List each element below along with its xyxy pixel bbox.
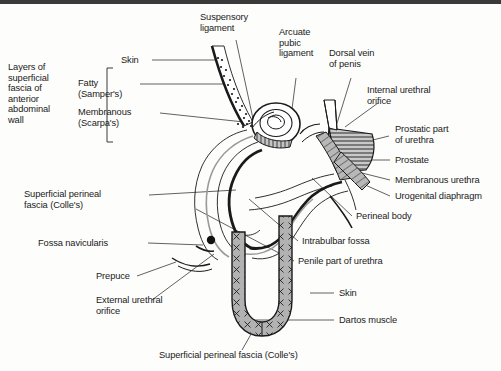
pubic-symphysis [252,103,300,148]
label-skin-top: Skin [121,55,139,66]
label-perineal-body: Perineal body [356,211,412,222]
label-layers-group: Layers of superficial fascia of anterior… [8,62,50,126]
label-membranous-urethra: Membranous urethra [395,175,480,186]
anatomical-figure: Layers of superficial fascia of anterior… [0,0,501,371]
label-superficial-perineal-fascia-left: Superficial perineal fascia (Colle's) [24,189,148,210]
label-arcuate-pubic-ligament: Arcuate pubic ligament [279,27,313,59]
label-skin-right: Skin [339,288,357,299]
label-prepuce: Prepuce [96,271,130,282]
abdominal-wall [212,46,253,128]
label-penile-part: Penile part of urethra [298,256,383,267]
label-fossa-navicularis: Fossa navicularis [38,238,108,249]
urethra-and-penis [172,130,348,271]
label-prostate: Prostate [395,155,429,166]
scrotum-dartos [232,216,292,336]
label-internal-urethral-orifice: Internal urethral orifice [367,85,430,106]
label-intrabulbar-fossa: Intrabulbar fossa [302,236,370,247]
label-prostatic-part: Prostatic part of urethra [395,124,448,145]
label-dartos-muscle: Dartos muscle [339,315,397,326]
fossa-navicularis-marker [207,236,215,244]
label-dorsal-vein: Dorsal vein of penis [329,48,374,69]
label-external-urethral-orifice: External urethral orifice [96,295,163,316]
label-membranous: Membranous (Scarpa's) [78,107,131,128]
label-urogenital-diaphragm: Urogenital diaphragm [395,191,482,202]
label-fatty: Fatty (Samper's) [78,78,122,99]
label-suspensory-ligament: Suspensory ligament [200,12,248,33]
label-superficial-perineal-fascia-bottom: Superficial perineal fascia (Colle's) [159,350,298,361]
